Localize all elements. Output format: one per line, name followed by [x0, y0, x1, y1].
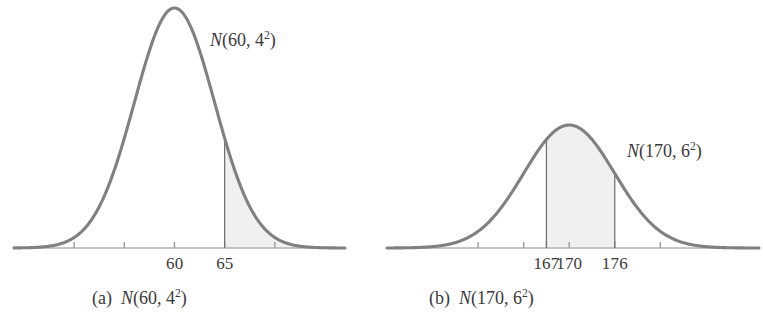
- annotation-b-N: N: [627, 141, 639, 161]
- normal-distribution-figure: 60 65 N(60, 42) (a) N(60, 42) 167 17: [0, 0, 763, 328]
- caption-a-N: N: [121, 288, 133, 308]
- x-tick-label-176: 176: [602, 254, 628, 274]
- panel-a-normal-60-4: 60 65 N(60, 42) (a) N(60, 42): [0, 0, 381, 328]
- normal-curve-a: [14, 8, 345, 248]
- x-tick-label-65: 65: [216, 254, 233, 274]
- annotation-label-a: N(60, 42): [210, 30, 276, 51]
- annotation-a-tail: ): [270, 30, 276, 50]
- x-tick-label-170: 170: [556, 254, 582, 274]
- caption-b-tail: ): [528, 288, 534, 308]
- annotation-b-body: (170, 6: [639, 141, 690, 161]
- annotation-label-b: N(170, 62): [627, 141, 702, 162]
- caption-b-body: (170, 6: [471, 288, 522, 308]
- caption-a: (a) N(60, 42): [92, 288, 187, 309]
- caption-b: (b) N(170, 62): [429, 288, 534, 309]
- annotation-b-tail: ): [696, 141, 702, 161]
- annotation-a-body: (60, 4: [222, 30, 264, 50]
- panel-a-plot: [0, 0, 381, 328]
- caption-a-body: (60, 4: [133, 288, 175, 308]
- shaded-interval-region-b: [546, 125, 614, 248]
- annotation-a-N: N: [210, 30, 222, 50]
- panel-b-plot: [381, 0, 763, 328]
- caption-b-N: N: [459, 288, 471, 308]
- caption-b-prefix: (b): [429, 288, 450, 308]
- caption-a-prefix: (a): [92, 288, 112, 308]
- caption-a-tail: ): [181, 288, 187, 308]
- x-tick-label-60: 60: [166, 254, 183, 274]
- x-axis-ticks-b: [478, 242, 660, 248]
- panel-b-normal-170-6: 167 170 176 N(170, 62) (b) N(170, 62): [381, 0, 763, 328]
